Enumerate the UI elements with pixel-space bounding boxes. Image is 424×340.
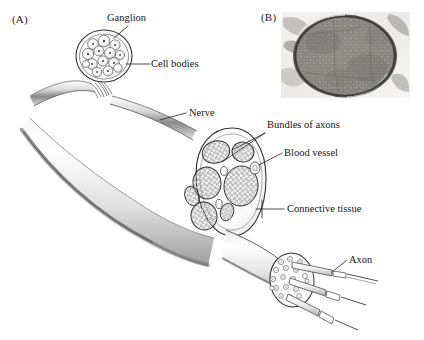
leader-axon <box>332 260 347 272</box>
nerve-cross-section-micrograph <box>281 12 410 98</box>
blood-vessel <box>221 167 228 176</box>
label-ganglion: Ganglion <box>107 12 146 23</box>
label-connective-tissue: Connective tissue <box>287 203 361 214</box>
label-nerve: Nerve <box>189 107 215 118</box>
label-axon: Axon <box>349 254 372 265</box>
micrograph-artwork <box>281 12 410 98</box>
label-blood-vessel: Blood vessel <box>284 147 338 158</box>
panel-b-letter: (B) <box>261 11 276 23</box>
panel-a-letter: (A) <box>12 13 28 25</box>
upper-nerve-trunk <box>30 81 197 140</box>
label-cell-bodies: Cell bodies <box>151 58 199 69</box>
nerve-anatomy-figure: (A) (B) Ganglion Cell bodies Nerve Bundl… <box>0 0 424 340</box>
blood-vessel <box>216 199 222 208</box>
label-bundles-of-axons: Bundles of axons <box>267 119 340 130</box>
